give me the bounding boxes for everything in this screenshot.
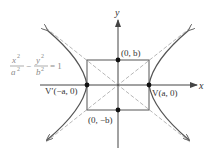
equation-rhs: = 1 — [50, 61, 62, 71]
vertex-left-label: V′(−a, 0) — [45, 86, 78, 96]
equation-sup: 2 — [17, 53, 20, 59]
co-vertex-bottom-label: (0, −b) — [88, 115, 113, 125]
equation-numerator-x: x — [11, 55, 16, 65]
hyperbola-equation: x 2 a 2 − y 2 b 2 = 1 — [10, 53, 62, 77]
equation-minus: − — [26, 61, 31, 71]
equation-sup: 2 — [41, 53, 44, 59]
co-vertex-top-label: (0, b) — [121, 48, 141, 58]
equation-numerator-y: y — [35, 55, 40, 65]
vertex-right-point — [147, 83, 152, 88]
vertex-right-label: V(a, 0) — [152, 88, 178, 98]
equation-sup: 2 — [17, 66, 20, 72]
co-vertex-top-point — [116, 58, 121, 63]
equation-denominator-a: a — [11, 67, 16, 77]
equation-sup: 2 — [41, 66, 44, 72]
vertex-left-point — [85, 83, 90, 88]
x-axis-label: x — [198, 80, 204, 91]
y-axis-label: y — [114, 7, 120, 18]
co-vertex-bottom-point — [116, 108, 121, 113]
hyperbola-diagram: x y (0, b) (0, −b) V(a, 0) V′(−a, 0) x 2… — [0, 0, 212, 158]
